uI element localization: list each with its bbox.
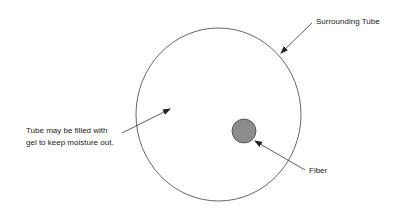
surrounding-tube-outline (136, 28, 301, 201)
surrounding-tube-label: Surrounding Tube (316, 16, 380, 28)
diagram-canvas (0, 0, 407, 213)
tube-pointer-arrow (281, 23, 312, 53)
fiber-label: Fiber (309, 165, 327, 177)
gel-label-line2: gel to keep moisture out. (26, 137, 114, 149)
fiber-core (232, 119, 256, 143)
gel-label-line1: Tube may be filled with (26, 125, 108, 137)
gel-pointer-arrow (122, 109, 170, 133)
fiber-pointer-arrow (255, 141, 305, 170)
